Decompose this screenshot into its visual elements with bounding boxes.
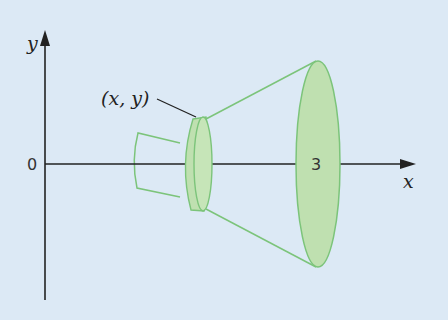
x-axis-label: x [403,170,414,192]
disc-face [194,117,212,211]
solid-left-edge [134,133,180,197]
point-pointer-line [157,99,196,117]
x-tick-label-3: 3 [311,155,321,174]
y-axis-label: y [26,32,38,54]
origin-label: 0 [27,155,37,174]
x-axis-arrow-icon [400,159,416,169]
solid-of-revolution-diagram: y x 0 3 (x, y) [0,0,448,320]
point-label: (x, y) [101,87,149,109]
y-axis-arrow-icon [40,30,50,46]
